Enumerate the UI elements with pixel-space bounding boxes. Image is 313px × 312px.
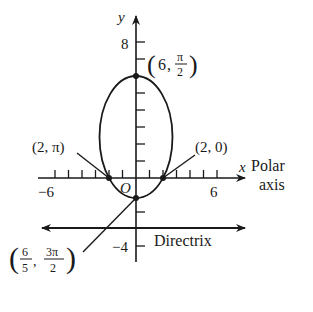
diagram-canvas: y x Polar axis O 8 −4 −6 6 ( 6 , π 2 ) (… (0, 0, 313, 312)
point-top-label: ( 6 , π 2 ) (147, 50, 198, 79)
svg-text:): ) (66, 241, 76, 275)
point-right-label: (2, 0) (195, 139, 228, 156)
x-tick-neg6: −6 (38, 184, 54, 200)
y-ticks (136, 42, 145, 246)
svg-text:3π: 3π (46, 245, 58, 259)
leader-bottom (83, 198, 136, 252)
svg-text:2: 2 (177, 65, 183, 79)
svg-text:6: 6 (158, 56, 166, 73)
point-top (133, 73, 139, 79)
svg-text:2: 2 (50, 261, 56, 275)
svg-text:6: 6 (22, 245, 28, 259)
point-bottom-label: ( 6 5 , 3π 2 ) (9, 241, 76, 275)
svg-text:,: , (167, 56, 171, 73)
point-left (106, 175, 112, 181)
origin-label: O (120, 180, 131, 196)
svg-text:,: , (33, 254, 37, 269)
x-tick-6: 6 (210, 184, 218, 200)
polar-axis-label-1: Polar (251, 157, 285, 174)
polar-axis-label-2: axis (259, 176, 285, 193)
svg-text:(: ( (9, 241, 19, 275)
point-left-label: (2, π) (32, 139, 65, 156)
y-axis-label: y (116, 9, 125, 25)
x-axis-label: x (238, 159, 246, 175)
svg-text:(: ( (147, 50, 156, 79)
svg-text:): ) (189, 50, 198, 79)
y-tick-neg4: −4 (112, 239, 128, 255)
svg-text:5: 5 (22, 261, 28, 275)
svg-text:π: π (177, 50, 183, 64)
point-bottom (133, 195, 139, 201)
directrix-label: Directrix (154, 232, 212, 249)
y-tick-8: 8 (121, 36, 129, 52)
ellipse-polar-diagram: y x Polar axis O 8 −4 −6 6 ( 6 , π 2 ) (… (0, 0, 313, 312)
point-right (160, 175, 166, 181)
